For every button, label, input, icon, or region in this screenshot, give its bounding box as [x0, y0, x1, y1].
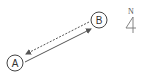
- node-a-label: A: [12, 58, 19, 69]
- node-b-label: B: [96, 15, 103, 26]
- edge-a-to-b-solid: [25, 29, 91, 62]
- node-b: B: [91, 12, 107, 28]
- north-label: N: [128, 7, 134, 16]
- diagram-canvas: A B N: [0, 0, 141, 78]
- edge-b-to-a-dashed: [26, 22, 89, 54]
- north-arrow-icon: N: [126, 7, 136, 33]
- node-a: A: [7, 55, 23, 71]
